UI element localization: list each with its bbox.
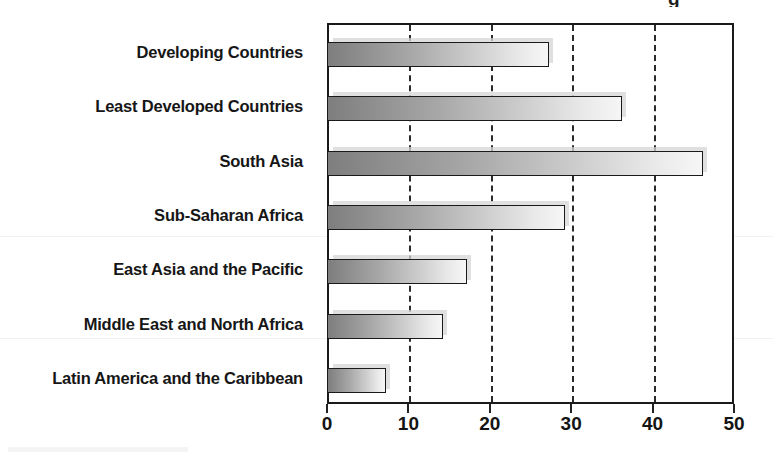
tick-mark-50 — [733, 404, 735, 413]
bar — [327, 151, 703, 176]
category-label: Least Developed Countries — [0, 97, 303, 116]
x-axis-tick-labels: 01020304050 — [327, 413, 734, 443]
tick-mark-0 — [326, 404, 328, 413]
bar — [327, 368, 386, 393]
tick-label-40: 40 — [642, 413, 663, 435]
tick-mark-20 — [489, 404, 491, 413]
bar-chart: g Developing CountriesLeast Developed Co… — [0, 0, 773, 459]
cropped-title-glyph: g — [668, 0, 690, 7]
gridline-40 — [654, 25, 656, 402]
bar — [327, 42, 549, 67]
category-axis-labels: Developing CountriesLeast Developed Coun… — [0, 23, 315, 404]
tick-mark-30 — [570, 404, 572, 413]
tick-mark-40 — [652, 404, 654, 413]
category-label: East Asia and the Pacific — [0, 260, 303, 279]
bar — [327, 205, 565, 230]
bar — [327, 314, 443, 339]
gridline-30 — [572, 25, 574, 402]
plot-area — [327, 23, 734, 404]
tick-label-10: 10 — [398, 413, 419, 435]
tick-label-50: 50 — [723, 413, 744, 435]
tick-label-30: 30 — [561, 413, 582, 435]
tick-mark-10 — [407, 404, 409, 413]
tick-label-0: 0 — [322, 413, 333, 435]
category-label: Sub-Saharan Africa — [0, 206, 303, 225]
bar — [327, 259, 467, 284]
category-label: Middle East and North Africa — [0, 315, 303, 334]
bar — [327, 96, 622, 121]
category-label: Latin America and the Caribbean — [0, 369, 303, 388]
page-edge-artifact — [8, 447, 188, 452]
category-label: Developing Countries — [0, 43, 303, 62]
tick-label-20: 20 — [479, 413, 500, 435]
plot-inner — [329, 25, 732, 402]
category-label: South Asia — [0, 152, 303, 171]
